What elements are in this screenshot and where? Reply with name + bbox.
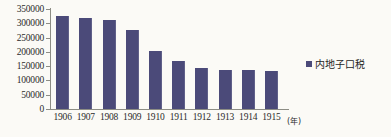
x-axis-tick-label: 1907 [77, 112, 95, 122]
y-axis-tick-label: 350000 [17, 4, 44, 14]
bar [172, 61, 185, 109]
x-axis-labels: 1906190719081909191019111912191319141915 [51, 112, 283, 130]
legend-swatch-icon [306, 61, 312, 67]
bar [149, 51, 162, 109]
bar [56, 16, 69, 109]
bar [103, 20, 116, 109]
y-axis-tick [46, 23, 50, 24]
y-axis-tick [46, 52, 50, 53]
bar [219, 70, 232, 109]
x-axis-tick-label: 1910 [146, 112, 164, 122]
chart-legend: 内地子口税 [306, 56, 365, 71]
x-axis-tick-label: 1906 [53, 112, 71, 122]
y-axis-tick-label: 150000 [17, 61, 44, 71]
y-axis-tick-label: 100000 [17, 75, 44, 85]
bar [126, 30, 139, 109]
x-axis-tick-label: 1913 [216, 112, 234, 122]
x-axis-tick-label: 1909 [123, 112, 141, 122]
y-axis-tick [46, 66, 50, 67]
bars-container [51, 9, 283, 109]
x-axis-tick-label: 1908 [100, 112, 118, 122]
x-axis-tick-label: 1914 [239, 112, 257, 122]
y-axis-tick-label: 0 [39, 104, 44, 114]
y-axis-tick-label: 300000 [17, 18, 44, 28]
bar-chart-figure: 3500003000002500002000001500001000005000… [0, 0, 391, 137]
y-axis-tick [46, 109, 50, 110]
bar [242, 70, 255, 109]
y-axis-tick [46, 9, 50, 10]
x-axis-tick-label: 1912 [193, 112, 211, 122]
y-axis-tick-label: 200000 [17, 47, 44, 57]
y-axis-tick-label: 250000 [17, 33, 44, 43]
y-axis-tick [46, 95, 50, 96]
y-axis-tick-label: 50000 [21, 90, 44, 100]
bar [79, 18, 92, 109]
y-axis-tick [46, 38, 50, 39]
x-axis-line [50, 109, 289, 110]
bar [195, 68, 208, 109]
x-axis-unit-label: (年) [287, 115, 301, 126]
y-axis-tick [46, 80, 50, 81]
legend-item-label: 内地子口税 [315, 56, 365, 71]
x-axis-tick-label: 1911 [170, 112, 188, 122]
bar [265, 71, 278, 109]
x-axis-tick-label: 1915 [262, 112, 280, 122]
